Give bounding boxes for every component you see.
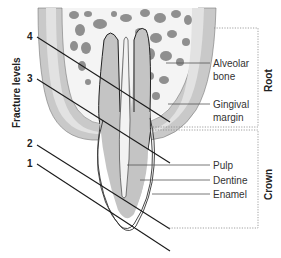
crown-label: Crown — [263, 169, 274, 200]
bone-spot — [182, 38, 190, 46]
root-label: Root — [263, 69, 274, 92]
fracture-level-2: 2 — [27, 138, 33, 149]
fracture-level-1: 1 — [27, 158, 33, 169]
bone-spot — [140, 9, 150, 17]
label-alveolar: Alveolar — [213, 58, 250, 69]
label-pulp: Pulp — [213, 160, 233, 171]
bone-spot — [93, 19, 107, 29]
diagram-canvas: 4 3 2 1 Fracture levels Alveolar bone Gi… — [0, 0, 281, 258]
bone-spot — [167, 30, 177, 38]
label-enamel: Enamel — [213, 189, 247, 200]
fracture-levels-title: Fracture levels — [11, 57, 22, 128]
tooth — [98, 28, 155, 230]
bone-spot — [85, 79, 91, 85]
bone-spot — [70, 41, 78, 51]
label-margin: margin — [213, 112, 244, 123]
fracture-level-4: 4 — [27, 31, 33, 42]
bone-spot — [160, 51, 172, 61]
fracture-level-3: 3 — [27, 73, 33, 84]
bone-spot — [75, 24, 85, 36]
bone-spot — [69, 11, 79, 19]
label-gingival: Gingival — [213, 99, 249, 110]
bone-spot — [120, 14, 132, 22]
bone-spot — [159, 76, 169, 84]
bone-spot — [152, 92, 160, 100]
bone-spot — [84, 11, 92, 17]
bone-spot — [150, 33, 162, 43]
bone-spot — [176, 58, 184, 66]
bone-spot — [184, 15, 192, 25]
label-bone: bone — [213, 71, 236, 82]
bone-spot — [171, 10, 181, 18]
bone-spot — [154, 13, 166, 23]
tooth-fracture-diagram: 4 3 2 1 Fracture levels Alveolar bone Gi… — [0, 0, 281, 258]
label-dentine: Dentine — [213, 175, 248, 186]
bone-spot — [111, 11, 117, 17]
bone-spot — [81, 42, 91, 54]
